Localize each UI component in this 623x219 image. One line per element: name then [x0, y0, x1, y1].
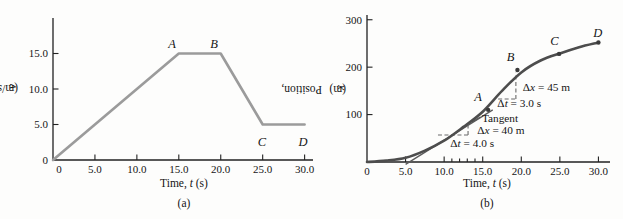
delta-x-40-label: Δx = 40 m: [477, 124, 524, 136]
delta-t-40-label: Δt = 4.0 s: [450, 137, 494, 149]
x-tick-label: 0: [56, 163, 62, 175]
x-tick-label: 30.0: [589, 165, 609, 177]
tangent-label: Tangent: [482, 112, 519, 124]
x-tick-label: 30.0: [295, 163, 315, 175]
y-tick-label: 15.0: [29, 47, 49, 59]
x-tick-label: 0: [364, 165, 370, 177]
x-tick-label: 20.0: [512, 165, 532, 177]
x-tick-label: 25.0: [253, 163, 273, 175]
textbook-figure: 05.010.015.020.025.030.005.010.015.0ABCD…: [0, 0, 623, 219]
panel-a-xlabel: Time, t (s): [84, 177, 284, 189]
x-tick-label: 20.0: [211, 163, 231, 175]
panel-a-caption: (a): [84, 197, 284, 209]
panel-b-caption: (b): [387, 197, 587, 209]
point-label-D: D: [592, 26, 602, 40]
point-label-C: C: [550, 34, 559, 48]
point-label-D: D: [297, 135, 307, 149]
x-tick-label: 15.0: [169, 163, 189, 175]
x-tick-label: 5.0: [88, 163, 102, 175]
x-tick-label: 5.0: [399, 165, 413, 177]
x-tick-label: 25.0: [550, 165, 570, 177]
panel-b-xlabel: Time, t (s): [387, 177, 587, 189]
delta-t-45-label: Δt = 3.0 s: [497, 97, 541, 109]
curve-point-dot: [515, 68, 519, 72]
panel-a: 05.010.015.020.025.030.005.010.015.0ABCD…: [0, 0, 320, 219]
point-label-A: A: [167, 37, 176, 51]
y-tick-label: 10.0: [29, 83, 49, 95]
y-tick-label: 5.0: [34, 118, 48, 130]
x-tick-label: 15.0: [473, 165, 493, 177]
x-tick-label: 10.0: [127, 163, 147, 175]
point-label-B: B: [210, 37, 218, 51]
curve-point-dot: [557, 52, 561, 56]
axes: [53, 18, 313, 160]
y-tick-label: 200: [346, 61, 363, 73]
velocity-curve: [53, 54, 305, 161]
delta-x-45-label: Δx = 45 m: [523, 81, 570, 93]
point-label-B: B: [507, 50, 515, 64]
y-tick-label: 100: [346, 108, 363, 120]
x-tick-label: 10.0: [435, 165, 455, 177]
y-tick-label: 300: [346, 14, 363, 26]
panel-b: 05.010.015.020.025.030.0100200300Tangent…: [320, 0, 623, 219]
point-label-A: A: [473, 90, 482, 104]
curve-point-dot: [596, 40, 600, 44]
point-label-C: C: [258, 135, 267, 149]
y-tick-label: 0: [43, 154, 49, 166]
